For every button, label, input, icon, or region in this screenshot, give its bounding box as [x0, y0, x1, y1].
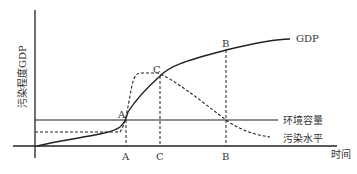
x-tick-B: B — [222, 151, 229, 162]
gdp-curve — [37, 39, 290, 146]
pollution-curve — [120, 73, 270, 137]
x-axis-label: 时间 — [331, 148, 351, 160]
pollution-gdp-diagram: A C B A C B GDP 环境容量 污染水平 时间 污染程度GDP — [0, 0, 357, 174]
point-label-C: C — [153, 64, 161, 75]
x-tick-C: C — [156, 151, 164, 162]
point-label-B: B — [222, 38, 229, 49]
point-label-A: A — [117, 109, 126, 120]
x-tick-A: A — [121, 151, 130, 162]
pollution-label: 污染水平 — [283, 132, 323, 144]
y-axis-label: 污染程度GDP — [16, 45, 28, 108]
gdp-label: GDP — [296, 33, 319, 44]
capacity-label: 环境容量 — [283, 114, 323, 126]
